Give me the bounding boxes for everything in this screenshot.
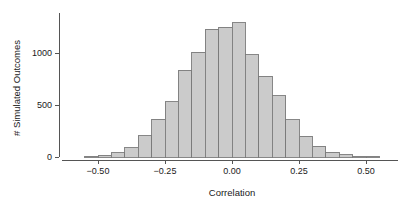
histogram-bar [138, 136, 151, 157]
y-tick-label: 500 [37, 100, 52, 110]
histogram-bar [111, 153, 124, 157]
histogram-bar [152, 119, 165, 157]
histogram-bar [232, 23, 245, 157]
histogram-bar [125, 148, 138, 157]
histogram-bar [353, 156, 366, 157]
histogram-bar [192, 52, 205, 157]
correlation-histogram-chart: −0.50−0.250.000.250.50 05001000 Correlat… [0, 0, 404, 201]
histogram-bar [312, 146, 325, 157]
histogram-bar [219, 27, 232, 157]
histogram-bar [259, 76, 272, 157]
histogram-bar [366, 156, 379, 157]
histogram-bar [286, 120, 299, 157]
y-tick-label: 0 [47, 152, 52, 162]
x-axis-title: Correlation [209, 187, 255, 198]
histogram-bar [165, 102, 178, 157]
histogram-bar [272, 96, 285, 157]
y-axis-title: # Simulated Outcomes [11, 40, 22, 136]
x-tick-label: 0.50 [357, 166, 375, 176]
x-axis [62, 160, 398, 164]
x-tick-label: −0.50 [87, 166, 110, 176]
y-tick-label: 1000 [32, 48, 52, 58]
histogram-bar [178, 70, 191, 157]
histogram-figure: −0.50−0.250.000.250.50 05001000 Correlat… [0, 0, 404, 201]
y-tick-labels: 05001000 [32, 48, 52, 162]
histogram-bar [205, 29, 218, 157]
histogram-bar [85, 156, 98, 157]
histogram-bar [98, 155, 111, 157]
bars-group [85, 23, 380, 157]
x-tick-label: 0.25 [290, 166, 308, 176]
x-tick-labels: −0.50−0.250.000.250.50 [87, 166, 375, 176]
histogram-bar [339, 155, 352, 157]
x-tick-label: −0.25 [154, 166, 177, 176]
histogram-bar [326, 152, 339, 157]
y-axis [55, 13, 59, 157]
histogram-bar [245, 55, 258, 157]
x-tick-label: 0.00 [223, 166, 241, 176]
histogram-bar [299, 136, 312, 157]
